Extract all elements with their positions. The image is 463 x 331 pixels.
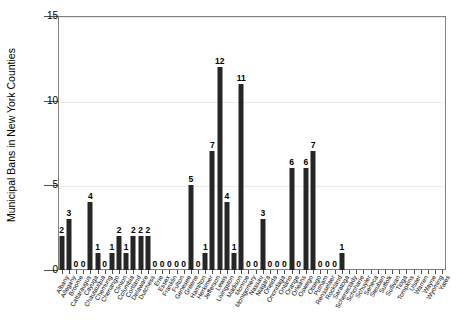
y-tick: 0 xyxy=(0,270,58,271)
bar-chart: Municipal Bans in New York Counties 2300… xyxy=(0,0,463,331)
bar-value-label: 1 xyxy=(232,242,237,252)
bar-group xyxy=(381,16,388,270)
bar-group: 1 xyxy=(108,16,115,270)
bar-group: 0 xyxy=(331,16,338,270)
bar xyxy=(239,84,244,270)
bar-group xyxy=(353,16,360,270)
bar-group: 0 xyxy=(252,16,259,270)
bar xyxy=(210,151,215,270)
bar-group: 0 xyxy=(317,16,324,270)
bar-value-label: 1 xyxy=(109,242,114,252)
bar xyxy=(131,236,136,270)
bar xyxy=(59,236,64,270)
bar-group: 2 xyxy=(115,16,122,270)
bar-group xyxy=(424,16,431,270)
bar-value-label: 0 xyxy=(253,259,258,269)
bar-group xyxy=(432,16,439,270)
bar-group: 6 xyxy=(302,16,309,270)
bar-group: 0 xyxy=(173,16,180,270)
bar-group: 0 xyxy=(281,16,288,270)
bar-group xyxy=(439,16,446,270)
bar-value-label: 6 xyxy=(303,157,308,167)
bar-group: 0 xyxy=(245,16,252,270)
bar xyxy=(260,219,265,270)
bar-value-label: 0 xyxy=(318,259,323,269)
bar-value-label: 0 xyxy=(268,259,273,269)
bar-value-label: 1 xyxy=(203,242,208,252)
bar-value-label: 5 xyxy=(189,174,194,184)
bar-group: 0 xyxy=(166,16,173,270)
bar-group: 2 xyxy=(58,16,65,270)
bar xyxy=(145,236,150,270)
bar-group xyxy=(367,16,374,270)
x-axis-labels: AlbanyAlleganyBroomeCattaraugusCayugaCha… xyxy=(58,274,446,331)
bar-value-label: 0 xyxy=(102,259,107,269)
bar xyxy=(117,236,122,270)
bar-value-label: 6 xyxy=(289,157,294,167)
bar-value-label: 0 xyxy=(181,259,186,269)
y-tick-label: 0 xyxy=(18,264,58,275)
bar-group: 1 xyxy=(202,16,209,270)
y-tick: 15 xyxy=(0,16,58,17)
bar-value-label: 1 xyxy=(124,242,129,252)
bar-group: 0 xyxy=(266,16,273,270)
y-tick: 10 xyxy=(0,101,58,102)
bar xyxy=(66,219,71,270)
bar-value-label: 2 xyxy=(145,225,150,235)
bar-group: 7 xyxy=(209,16,216,270)
bar-value-label: 1 xyxy=(339,242,344,252)
bar-group xyxy=(396,16,403,270)
bar-value-label: 0 xyxy=(160,259,165,269)
bar-value-label: 0 xyxy=(296,259,301,269)
bar-value-label: 1 xyxy=(95,242,100,252)
bar-group xyxy=(403,16,410,270)
bar xyxy=(303,168,308,270)
bar-value-label: 0 xyxy=(246,259,251,269)
bar-value-label: 0 xyxy=(325,259,330,269)
bar-group xyxy=(417,16,424,270)
bar-group: 12 xyxy=(216,16,223,270)
bar xyxy=(289,168,294,270)
bar-group xyxy=(374,16,381,270)
bar-value-label: 3 xyxy=(66,208,71,218)
bar-group: 0 xyxy=(274,16,281,270)
bar-value-label: 0 xyxy=(282,259,287,269)
y-tick: 5 xyxy=(0,185,58,186)
bar-group: 2 xyxy=(144,16,151,270)
bar-value-label: 7 xyxy=(210,140,215,150)
bar-value-label: 2 xyxy=(59,225,64,235)
bar-group: 3 xyxy=(65,16,72,270)
bar-group: 0 xyxy=(101,16,108,270)
bars-layer: 2300410121222000005017124111003000606700… xyxy=(58,16,446,270)
bar xyxy=(138,236,143,270)
bar-group: 2 xyxy=(137,16,144,270)
bar-group: 1 xyxy=(123,16,130,270)
bar-group: 7 xyxy=(309,16,316,270)
bar-group xyxy=(345,16,352,270)
bar-value-label: 2 xyxy=(117,225,122,235)
bar-value-label: 0 xyxy=(153,259,158,269)
bar-group: 0 xyxy=(195,16,202,270)
bar-group: 3 xyxy=(259,16,266,270)
bar-group: 6 xyxy=(288,16,295,270)
bar-group xyxy=(360,16,367,270)
bar-value-label: 0 xyxy=(275,259,280,269)
bar-group: 0 xyxy=(151,16,158,270)
bar-group: 0 xyxy=(159,16,166,270)
bar-group: 4 xyxy=(223,16,230,270)
y-axis-title: Municipal Bans in New York Counties xyxy=(2,0,20,270)
bar xyxy=(95,253,100,270)
bar-group: 0 xyxy=(80,16,87,270)
bar-value-label: 2 xyxy=(138,225,143,235)
bar-group: 1 xyxy=(230,16,237,270)
bar xyxy=(232,253,237,270)
bar-value-label: 0 xyxy=(74,259,79,269)
bar-group: 5 xyxy=(187,16,194,270)
bar-value-label: 3 xyxy=(260,208,265,218)
bar xyxy=(188,185,193,270)
bar-group: 0 xyxy=(295,16,302,270)
bar xyxy=(203,253,208,270)
bar-group: 0 xyxy=(180,16,187,270)
y-tick-label: 15 xyxy=(18,10,58,21)
bar-group: 1 xyxy=(338,16,345,270)
